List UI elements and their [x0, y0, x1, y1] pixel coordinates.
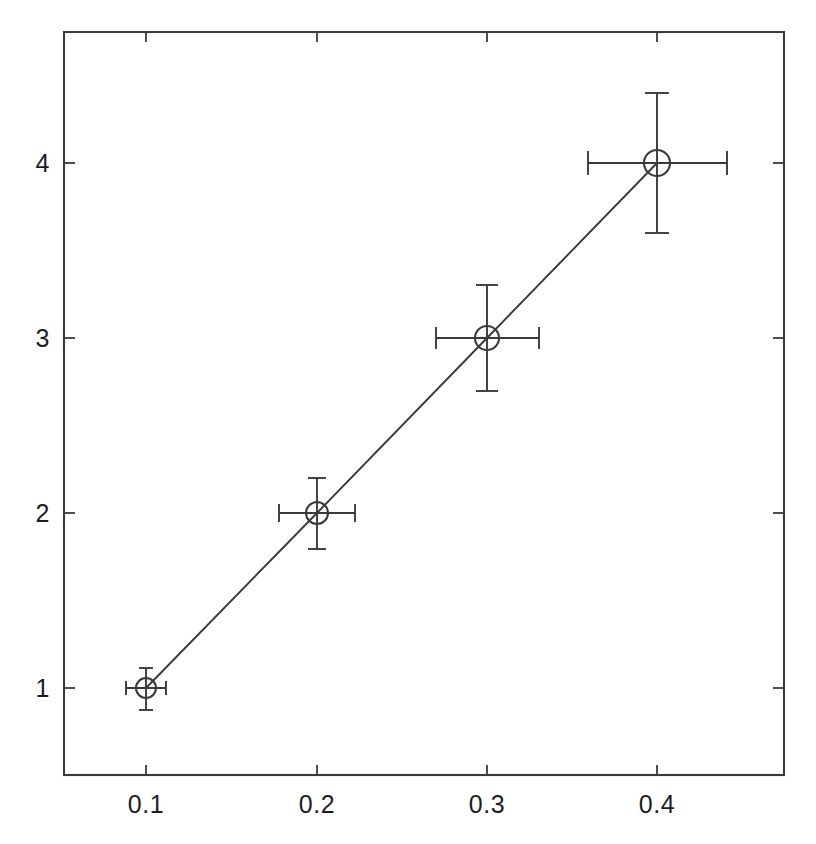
x-tick-label-0.4: 0.4	[639, 790, 675, 819]
x-axis-ticks	[146, 765, 657, 775]
y-tick-label-1: 1	[28, 674, 50, 703]
chart-figure: 0.1 0.2 0.3 0.4 4 3 2 1	[0, 0, 816, 844]
plot-canvas	[0, 0, 816, 844]
x-tick-label-0.1: 0.1	[128, 790, 164, 819]
y-tick-label-4: 4	[28, 149, 50, 178]
x-axis-ticks-top	[146, 32, 657, 42]
y-axis-ticks-right	[773, 163, 784, 688]
x-tick-label-0.3: 0.3	[469, 790, 505, 819]
y-tick-label-3: 3	[28, 324, 50, 353]
x-tick-label-0.2: 0.2	[299, 790, 335, 819]
y-axis-ticks	[64, 163, 75, 688]
y-tick-label-2: 2	[28, 499, 50, 528]
data-series-line	[146, 163, 657, 688]
data-point-2	[279, 478, 355, 549]
